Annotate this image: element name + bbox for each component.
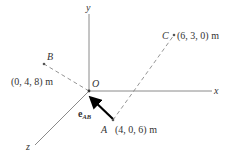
point-b-coords: (0, 4, 8) m bbox=[11, 76, 53, 88]
x-axis-label: x bbox=[213, 85, 219, 96]
dashed-line-a-to-c bbox=[113, 35, 174, 120]
point-a-coords: (4, 0, 6) m bbox=[115, 124, 157, 136]
y-axis-label: y bbox=[85, 2, 91, 13]
point-o bbox=[88, 90, 91, 93]
point-c-coords: (6, 3, 0) m bbox=[177, 30, 219, 42]
unit-vector-subscript: AB bbox=[81, 113, 91, 120]
vector-diagram: y x z O B (0, 4, 8) m C (6, 3, 0) m A (4… bbox=[0, 0, 227, 159]
unit-vector-label: eAB bbox=[78, 108, 92, 120]
point-b bbox=[43, 63, 46, 66]
point-a bbox=[112, 119, 115, 122]
z-axis-label: z bbox=[25, 141, 30, 152]
point-c bbox=[173, 34, 176, 37]
origin-label: O bbox=[92, 78, 99, 89]
point-c-label: C bbox=[162, 30, 169, 41]
unit-vector-arrow bbox=[91, 98, 113, 119]
point-b-label: B bbox=[47, 51, 53, 62]
point-a-label: A bbox=[100, 124, 108, 135]
